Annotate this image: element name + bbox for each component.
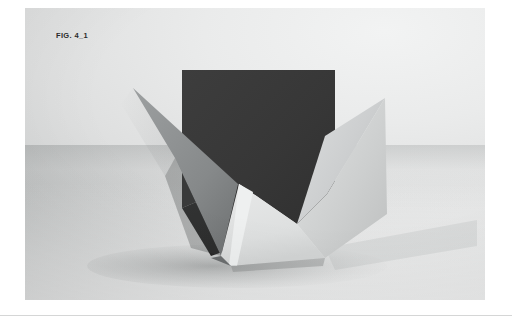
photograph-plate: FIG. 4_1	[25, 8, 485, 300]
bottom-divider	[0, 315, 512, 316]
paper-sculpture	[25, 8, 485, 300]
figure-label: FIG. 4_1	[56, 31, 88, 40]
page-canvas: FIG. 4_1	[0, 0, 512, 322]
